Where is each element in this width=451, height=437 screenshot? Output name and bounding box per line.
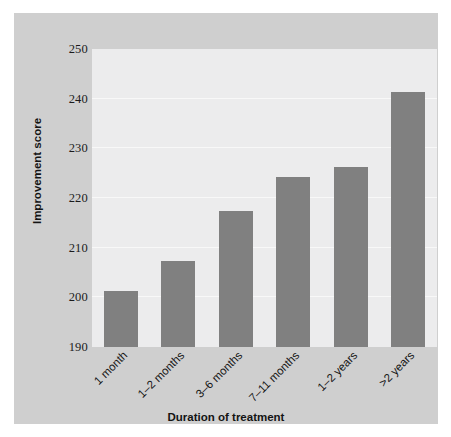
y-axis-tick-label: 190: [30, 340, 88, 355]
y-axis-tick-label: 250: [30, 42, 88, 57]
y-axis-tick-label: 240: [30, 92, 88, 107]
y-axis-tick-label: 230: [30, 141, 88, 156]
chart-figure: Improvement score 190200210220230240250 …: [0, 0, 451, 437]
bar: [391, 92, 425, 347]
bar: [104, 291, 138, 347]
chart-panel: Improvement score 190200210220230240250 …: [14, 13, 438, 424]
plot-area: [92, 49, 437, 347]
y-axis-tick-label: 220: [30, 191, 88, 206]
y-axis-tick-labels: 190200210220230240250: [26, 49, 88, 347]
bar: [161, 261, 195, 347]
bar: [276, 177, 310, 347]
y-axis-tick-label: 210: [30, 241, 88, 256]
bar-series: [92, 49, 437, 347]
y-axis-tick-label: 200: [30, 290, 88, 305]
bar: [219, 211, 253, 347]
bar: [334, 167, 368, 347]
x-axis-tick-labels: 1 month1–2 months3–6 months7–11 months1–…: [92, 349, 437, 407]
x-axis-title: Duration of treatment: [14, 411, 438, 423]
